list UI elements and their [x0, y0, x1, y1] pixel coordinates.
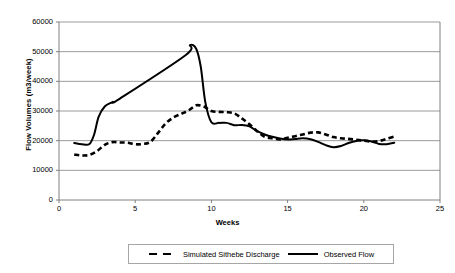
legend-item-label: Simulated Sithebe Discharge: [183, 250, 280, 259]
series-line-observed-flow: [74, 45, 394, 147]
legend-dashed-line-icon: [148, 250, 178, 259]
legend-item[interactable]: Simulated Sithebe Discharge: [148, 250, 280, 259]
legend-solid-line-icon: [287, 250, 319, 259]
plot-area: [0, 0, 455, 273]
chart-figure: Flow Volumes (m3/week) 01000020000300004…: [0, 0, 455, 273]
x-axis-label: Weeks: [0, 218, 455, 227]
series-line-simulated-sithebe-discharge: [74, 105, 394, 155]
legend-item[interactable]: Observed Flow: [287, 250, 374, 259]
legend-item-label: Observed Flow: [324, 250, 374, 259]
chart-legend: Simulated Sithebe DischargeObserved Flow: [128, 244, 394, 264]
